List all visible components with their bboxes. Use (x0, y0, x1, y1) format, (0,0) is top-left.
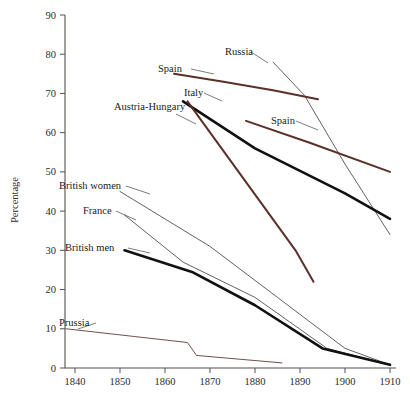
leader-line-0 (191, 69, 214, 74)
axis-lines (65, 15, 396, 368)
series-annotation-prussia: Prussia (59, 317, 90, 328)
y-tick-label: 30 (46, 245, 57, 256)
series-annotation-spain: Spain (271, 115, 296, 126)
series-annotation-austria-hungary: Austria-Hungary (114, 101, 186, 112)
series-annotation-russia: Russia (225, 46, 253, 57)
leader-line-3 (176, 114, 196, 124)
series-line-spain-lower (246, 121, 390, 172)
y-tick-label: 60 (46, 127, 57, 138)
series-annotation-italy: Italy (184, 87, 204, 98)
y-tick-label: 40 (46, 206, 57, 217)
x-tick-label: 1880 (245, 376, 266, 387)
leader-line-5 (126, 186, 150, 194)
x-tick-label: 1870 (200, 376, 221, 387)
leader-line-2 (204, 93, 222, 101)
leader-line-6 (116, 211, 136, 220)
y-tick-label: 70 (46, 88, 57, 99)
leader-line-4 (296, 121, 318, 130)
series-line-france (125, 215, 391, 365)
series-line-british-men (125, 250, 391, 365)
y-tick-label: 0 (51, 363, 56, 374)
leader-line-1 (251, 52, 268, 63)
series-line-austria-hungary (188, 101, 314, 281)
y-axis-title: Percentage (9, 177, 20, 223)
series-annotation-spain: Spain (158, 63, 183, 74)
y-tick-label: 50 (46, 166, 57, 177)
series-line-british-women (120, 192, 390, 365)
y-tick-label: 80 (46, 49, 57, 60)
x-tick-label: 1850 (110, 376, 131, 387)
x-tick-label: 1860 (155, 376, 176, 387)
line-chart-svg: 0102030405060708090184018501860187018801… (0, 0, 410, 397)
series-line-prussia (66, 329, 282, 363)
series-annotation-france: France (83, 205, 112, 216)
x-tick-label: 1900 (335, 376, 356, 387)
x-tick-label: 1890 (290, 376, 311, 387)
x-tick-label: 1910 (380, 376, 401, 387)
series-annotation-british-women: British women (59, 180, 122, 191)
series-annotation-british-men: British men (65, 242, 115, 253)
axes: 0102030405060708090184018501860187018801… (46, 10, 401, 387)
x-tick-label: 1840 (65, 376, 86, 387)
y-tick-label: 90 (46, 10, 57, 21)
y-tick-label: 10 (46, 323, 57, 334)
y-tick-label: 20 (46, 284, 57, 295)
chart-container: 0102030405060708090184018501860187018801… (0, 0, 410, 397)
